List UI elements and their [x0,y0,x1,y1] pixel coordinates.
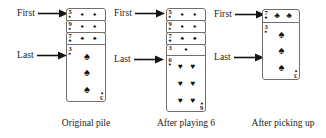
suit-pip: ♣ [274,12,279,20]
card-rank: 3 ♠ [265,24,268,35]
suit-pip: ♠ [181,12,184,18]
card-face: 5 ♠ ♠ ♠ [67,9,105,20]
caption-after-playing-6: After playing 6 [136,118,236,128]
card-rank: 5 ♠ [169,9,172,20]
card-rank-corner: 6 ♥ [200,100,203,111]
suit-pip: ♠ [84,51,90,62]
pile-original[interactable]: 5 ♠ ♠ ♠ 9 ♠ ♠ ♠ [66,8,106,102]
right-arrow-icon [134,55,164,64]
suit-pip: ♥ [190,80,195,88]
suit-pip: ♠ [185,47,188,53]
card-full[interactable]: 6 ♥ 6 ♥ ♥ ♥ ♥ ♥ ♥ ♥ [166,55,206,112]
card-full[interactable]: 3 ♠ 3 ♠ ♠ ♠ ♠ [66,44,106,102]
card-pips: ♠ ♠ [76,9,101,20]
last-label-text: Last [114,54,131,64]
suit-pip: ♥ [190,97,195,105]
last-label-panel-1: Last [17,50,67,60]
first-label-text: First [114,8,132,18]
suit-pip: ♣ [193,36,197,42]
card-face: 7 ♣ ♣ ♣ [263,10,299,22]
card-rank: 9 ♠ [69,21,72,32]
suit-pip: ♠ [84,84,90,95]
pile-after-playing-6[interactable]: 5 ♠ ♠ ♠ 9 ♠ ♠ ♠ [166,8,206,112]
card-pips: ♠ ♠ ♠ [77,48,97,98]
right-arrow-icon [38,9,68,18]
suit-pip: ♠ [93,24,96,30]
card-pips: ♣ ♣ [271,10,295,22]
suit-pip: ♠ [193,12,196,18]
suit-pip: ♠ [279,29,285,40]
caption-after-picking-up: After picking up [233,118,326,128]
suit-pip: ♥ [178,97,183,105]
card-face: 7 ♣ ♣ ♣ [167,33,205,44]
right-arrow-icon [234,53,264,62]
right-arrow-icon [135,9,165,18]
first-label-panel-3: First [214,9,265,19]
card-pips: ♣ ♣ [76,33,101,44]
card-pips: ♠ [179,45,193,55]
card-rank: 7 ♣ [169,33,172,44]
card-pips: ♠ ♠ [176,21,201,32]
card-rank: 3 ♠ [69,46,72,57]
card-pips: ♠ ♠ [176,9,201,20]
suit-pip: ♣ [180,36,184,42]
card-face: 9 ♠ ♠ ♠ [67,21,105,32]
figure-canvas: First Last 5 ♠ ♠ ♠ [0,0,326,138]
card-rank-corner: 3 ♠ [100,90,103,101]
card-full[interactable]: 3 ♠ 3 ♠ ♠ ♠ ♠ [262,22,300,80]
right-arrow-icon [235,10,265,19]
first-label-text: First [214,9,232,19]
card-pips: ♠ ♠ ♠ [272,26,291,76]
caption-original-pile: Original pile [36,118,136,128]
suit-pip: ♠ [279,45,285,56]
last-label-panel-2: Last [114,54,164,64]
suit-pip: ♥ [178,63,183,71]
suit-pip: ♥ [190,63,195,71]
card-pips: ♠ ♠ [76,21,101,32]
suit-pip: ♣ [286,12,291,20]
card-rank: 7 ♣ [265,10,268,21]
last-label-text: Last [214,52,231,62]
suit-pip: ♠ [279,62,285,73]
suit-pip: ♠ [81,12,84,18]
card-strip[interactable]: 7 ♣ ♣ ♣ [262,9,300,23]
card-rank: 5 ♠ [69,9,72,20]
card-face: 7 ♣ ♣ ♣ [67,33,105,44]
right-arrow-icon [37,51,67,60]
last-label-panel-3: Last [214,52,264,62]
card-pips: ♣ ♣ [176,33,201,44]
card-face: 5 ♠ ♠ ♠ [167,9,205,20]
suit-pip: ♣ [80,36,84,42]
card-face: 3 ♠ [167,45,205,55]
first-label-text: First [17,8,35,18]
first-label-panel-1: First [17,8,68,18]
suit-pip: ♠ [81,24,84,30]
pile-after-picking-up[interactable]: 7 ♣ ♣ ♣ 3 ♠ 3 ♠ ♠ ♠ ♠ [262,9,300,80]
last-label-text: Last [17,50,34,60]
suit-pip: ♠ [181,24,184,30]
card-face: 9 ♠ ♠ ♠ [167,21,205,32]
suit-pip: ♠ [93,12,96,18]
suit-pip: ♠ [193,24,196,30]
card-rank: 6 ♥ [169,57,172,68]
card-rank: 9 ♠ [169,21,172,32]
card-rank: 3 [169,45,172,52]
suit-pip: ♥ [178,80,183,88]
card-rank: 7 ♣ [69,33,72,44]
suit-pip: ♣ [93,36,97,42]
first-label-panel-2: First [114,8,165,18]
card-rank-corner: 3 ♠ [294,68,297,79]
card-pips: ♥ ♥ ♥ ♥ ♥ ♥ [174,58,199,109]
suit-pip: ♠ [84,67,90,78]
